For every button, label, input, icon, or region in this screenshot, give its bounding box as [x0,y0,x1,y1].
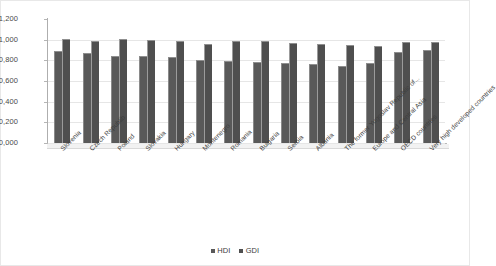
bar-gdi [431,42,439,143]
bar-group [281,19,298,143]
y-axis-tick-mark [44,81,47,82]
y-axis-tick-mark [44,19,47,20]
y-axis-tick-label: 1,000 [0,36,18,44]
bar-gdi [119,39,127,143]
y-axis-tick-mark [44,122,47,123]
y-axis-tick-label: 0,400 [0,98,18,106]
bar-gdi [147,40,155,143]
bar-group [196,19,213,143]
y-axis-tick-mark [44,102,47,103]
y-axis-tick-label: 0,000 [0,139,18,147]
bar-hdi [253,62,261,143]
y-axis-tick-label: 0,600 [0,77,18,85]
bar-gdi [346,45,354,143]
y-axis-tick-mark [44,60,47,61]
gridline [48,143,445,144]
bar-group [54,19,71,143]
bar-gdi [204,44,212,143]
plot-floor [47,144,449,149]
bar-hdi [196,60,204,143]
bar-gdi [232,41,240,143]
y-axis-tick-mark [44,143,47,144]
bar-gdi [176,41,184,143]
legend-swatch-icon [239,249,243,253]
gridline [48,81,445,82]
bar-hdi [281,63,289,143]
y-axis-tick-label: 0,200 [0,118,18,126]
bar-gdi [317,44,325,143]
y-axis-tick-label: 0,800 [0,56,18,64]
bar-hdi [338,66,346,143]
legend-swatch-icon [211,249,215,253]
legend-item-gdi[interactable]: GDI [239,246,259,255]
legend-label: HDI [217,246,230,255]
legend-label: GDI [246,246,259,255]
bar-hdi [139,56,147,143]
bar-group [139,19,156,143]
bar-hdi [309,64,317,143]
bar-group [309,19,326,143]
bar-group [253,19,270,143]
bar-hdi [168,57,176,143]
bar-gdi [91,41,99,143]
gridline [48,60,445,61]
gridline [48,40,445,41]
gridline [48,122,445,123]
bar-gdi [62,39,70,143]
bar-hdi [54,51,62,143]
legend-item-hdi[interactable]: HDI [211,246,230,255]
y-axis-tick-label: 1,200 [0,15,18,23]
bar-gdi [289,43,297,143]
plot-area [48,19,445,143]
y-axis-tick-mark [44,40,47,41]
bar-hdi [83,53,91,143]
bar-gdi [261,41,269,143]
bar-group [83,19,100,143]
gridline [48,102,445,103]
bar-gdi [374,46,382,143]
bar-group [168,19,185,143]
chart-legend: HDIGDI [1,246,469,255]
bar-group [338,19,355,143]
